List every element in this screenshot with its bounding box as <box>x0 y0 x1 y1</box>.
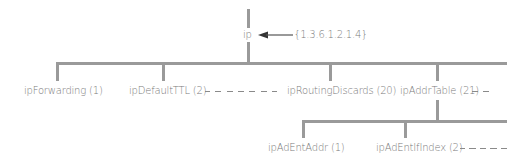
ellipsis-dashes-ipaddrtable <box>472 91 489 93</box>
node-ipadententaddr: ipAdEntAddr (1) <box>268 142 345 154</box>
ellipsis-dashes-level2 <box>460 148 507 150</box>
level1-branch-bar <box>56 62 507 65</box>
drop-ipadentifindex <box>404 120 407 138</box>
arrow-left-icon <box>256 30 296 40</box>
drop-ipdefaultttl <box>162 62 165 81</box>
node-iproutingdiscards: ipRoutingDiscards (20) <box>287 85 396 97</box>
node-ipforwarding: ipForwarding (1) <box>24 85 103 97</box>
drop-ipaddrtable <box>436 62 439 81</box>
node-ipadentifindex: ipAdEntIfIndex (2) <box>376 142 462 154</box>
drop-ipforwarding <box>56 62 59 81</box>
node-ipaddrtable: ipAddrTable (21) <box>400 85 479 97</box>
drop-ipadentaddr <box>302 120 305 138</box>
trunk-line-bottom <box>247 42 250 63</box>
trunk-line-top <box>247 9 250 28</box>
drop-iproutingdiscards <box>329 62 332 81</box>
root-oid-label: {1.3.6.1.2.1.4} <box>294 29 367 41</box>
ellipsis-dashes-level1 <box>205 91 277 93</box>
drop-ipaddrtable-children <box>436 100 439 121</box>
mib-tree-diagram: ip {1.3.6.1.2.1.4} ipForwarding (1) ipDe… <box>0 0 532 165</box>
root-node-ip: ip <box>243 29 252 41</box>
node-ipdefaultttl: ipDefaultTTL (2) <box>129 85 206 97</box>
